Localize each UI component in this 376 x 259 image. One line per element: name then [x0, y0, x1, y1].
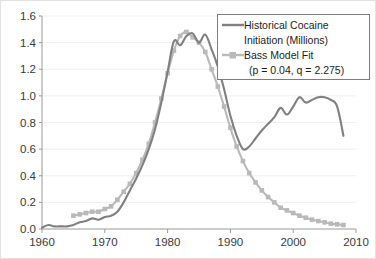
- bass-data-point: [109, 204, 114, 209]
- legend-label-historical-line2: Initiation (Millions): [244, 34, 328, 46]
- bass-data-point: [84, 211, 89, 216]
- y-tick-label: 1.0: [20, 90, 36, 102]
- bass-data-point: [115, 197, 120, 202]
- bass-data-point: [247, 171, 252, 176]
- bass-data-point: [316, 219, 321, 224]
- bass-data-point: [278, 205, 283, 210]
- legend-label-bass-line1: Bass Model Fit: [244, 49, 314, 61]
- bass-data-point: [285, 208, 290, 213]
- bass-data-point: [266, 195, 271, 200]
- bass-data-point: [234, 144, 239, 149]
- x-tick-label: 1970: [92, 236, 118, 248]
- bass-data-point: [253, 180, 258, 185]
- y-tick-label: 0.6: [20, 143, 36, 155]
- bass-data-point: [228, 126, 233, 131]
- bass-data-point: [121, 189, 126, 194]
- bass-data-point: [209, 67, 214, 72]
- bass-data-point: [178, 34, 183, 39]
- chart-canvas: 0.00.20.40.60.81.01.21.41.6 196019701980…: [1, 1, 376, 259]
- bass-data-point: [71, 213, 76, 218]
- bass-data-point: [260, 188, 265, 193]
- bass-data-point: [310, 217, 315, 222]
- bass-data-point: [272, 200, 277, 205]
- cocaine-initiation-chart: 0.00.20.40.60.81.01.21.41.6 196019701980…: [0, 0, 376, 259]
- bass-data-point: [77, 212, 82, 217]
- bass-data-point: [216, 84, 221, 89]
- legend-label-bass-line2: (p = 0.04, q = 2.275): [249, 64, 344, 76]
- x-axis-tick-labels: 196019701980199020002010: [29, 236, 369, 248]
- x-tick-label: 2000: [280, 236, 306, 248]
- bass-data-point: [322, 220, 327, 225]
- y-tick-label: 1.4: [20, 37, 37, 49]
- bass-data-point: [329, 221, 334, 226]
- bass-data-point: [96, 209, 101, 214]
- legend-marker-bass: [230, 52, 237, 59]
- y-tick-label: 1.2: [20, 63, 36, 75]
- bass-data-point: [241, 159, 246, 164]
- x-tick-label: 1980: [155, 236, 181, 248]
- bass-data-point: [90, 209, 95, 214]
- y-tick-label: 1.6: [20, 10, 36, 22]
- legend-label-historical-line1: Historical Cocaine: [244, 19, 329, 31]
- bass-data-point: [222, 104, 227, 109]
- y-tick-label: 0.8: [20, 117, 36, 129]
- legend: Historical Cocaine Initiation (Millions)…: [218, 15, 370, 80]
- bass-data-point: [341, 223, 346, 228]
- y-axis-tick-labels: 0.00.20.40.60.81.01.21.41.6: [20, 10, 37, 235]
- bass-data-point: [335, 222, 340, 227]
- x-tick-label: 1990: [218, 236, 244, 248]
- bass-data-point: [103, 207, 108, 212]
- bass-data-point: [297, 213, 302, 218]
- bass-data-point: [291, 211, 296, 216]
- bass-data-point: [203, 50, 208, 55]
- y-tick-label: 0.4: [20, 170, 37, 182]
- x-tick-label: 1960: [29, 236, 55, 248]
- y-tick-label: 0.2: [20, 196, 36, 208]
- x-tick-label: 2010: [343, 236, 369, 248]
- y-tick-label: 0.0: [20, 223, 36, 235]
- bass-data-point: [303, 215, 308, 220]
